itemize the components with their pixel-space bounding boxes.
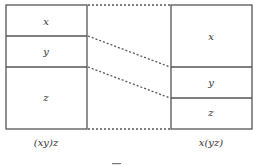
right-segment-y-label: y	[207, 77, 214, 88]
left-segment-y-label: y	[42, 46, 49, 57]
right-segment-z-label: z	[207, 107, 214, 118]
left-segment-x-label: x	[43, 16, 49, 27]
right-caption: x(yz)	[199, 137, 223, 148]
connector-xy	[88, 36, 170, 67]
dotted-connectors	[88, 5, 170, 129]
associativity-diagram: x y z x y z (xy)z x(yz)	[0, 0, 254, 165]
left-segment-z-label: z	[42, 92, 49, 103]
connector-yz	[88, 67, 170, 98]
right-box: x y z	[171, 5, 252, 129]
right-segment-x-label: x	[208, 31, 214, 42]
left-box: x y z	[6, 5, 87, 129]
left-caption: (xy)z	[34, 137, 59, 148]
truncated-caption-fragment	[112, 163, 121, 164]
